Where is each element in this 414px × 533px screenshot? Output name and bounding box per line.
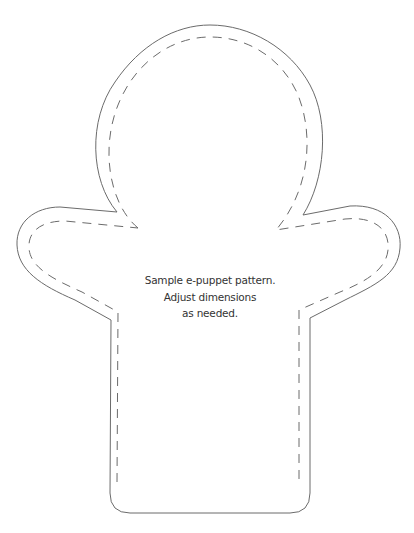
puppet-pattern-canvas: Sample e-puppet pattern. Adjust dimensio… xyxy=(0,0,414,533)
stitch-outline xyxy=(29,37,388,482)
caption-line-1: Sample e-puppet pattern. xyxy=(110,272,310,289)
pattern-caption: Sample e-puppet pattern. Adjust dimensio… xyxy=(110,272,310,322)
cut-outline xyxy=(17,25,400,513)
caption-line-3: as needed. xyxy=(110,305,310,322)
caption-line-2: Adjust dimensions xyxy=(110,289,310,306)
